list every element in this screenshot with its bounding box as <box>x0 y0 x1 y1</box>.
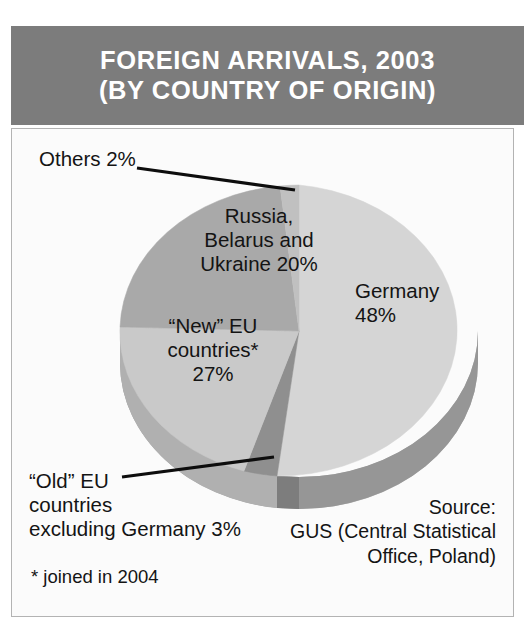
chart-plot-panel: Others 2% Russia, Belarus and Ukraine 20… <box>11 128 514 617</box>
chart-title-line-1: FOREIGN ARRIVALS, 2003 <box>100 46 435 76</box>
chart-source-note: Source: GUS (Central Statistical Office,… <box>246 495 496 568</box>
slice-label-new-eu: “New” EU countries* 27% <box>124 314 302 387</box>
chart-footnote: * joined in 2004 <box>31 566 159 588</box>
slice-label-germany: Germany 48% <box>355 279 439 327</box>
leader-line-others <box>137 168 295 190</box>
chart-title-line-2: (BY COUNTRY OF ORIGIN) <box>99 76 436 106</box>
slice-label-russia: Russia, Belarus and Ukraine 20% <box>175 204 343 277</box>
chart-figure: FOREIGN ARRIVALS, 2003 (BY COUNTRY OF OR… <box>0 0 524 629</box>
chart-title-band: FOREIGN ARRIVALS, 2003 (BY COUNTRY OF OR… <box>11 26 524 125</box>
slice-label-old-eu: “Old” EU countries excluding Germany 3% <box>29 469 241 542</box>
slice-label-others: Others 2% <box>39 147 136 171</box>
